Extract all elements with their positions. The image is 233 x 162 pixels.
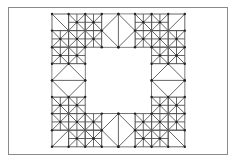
triangulated-mesh <box>0 0 233 162</box>
